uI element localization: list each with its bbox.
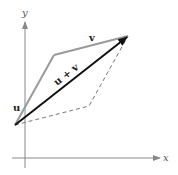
vector-diagram: y x u v u + v bbox=[0, 0, 178, 175]
y-axis-label: y bbox=[21, 7, 28, 18]
vector-u bbox=[15, 55, 54, 125]
x-axis-label: x bbox=[163, 152, 169, 163]
vector-v-label: v bbox=[88, 32, 96, 43]
vector-u-label: u bbox=[13, 102, 20, 113]
